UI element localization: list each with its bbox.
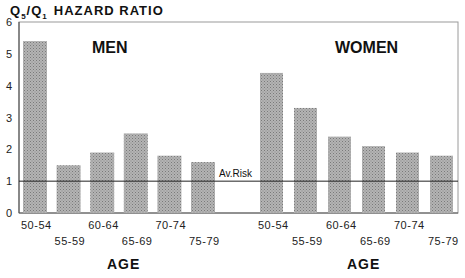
x-tick-label: 50-54 <box>258 219 289 231</box>
y-tick-label: 1 <box>6 175 12 187</box>
bar-men-75-79 <box>191 162 215 213</box>
bar-women-50-54 <box>260 73 283 213</box>
x-tick-label: 60-64 <box>326 219 357 231</box>
bar-men-55-59 <box>57 165 81 213</box>
y-tick-labels: 0123456 <box>6 16 12 219</box>
x-tick-labels: 50-5455-5960-6465-6970-7475-7950-5455-59… <box>21 219 459 247</box>
y-tick-label: 0 <box>6 207 12 219</box>
panel-label-women: WOMEN <box>335 39 398 56</box>
x-tick-label: 65-69 <box>122 235 153 247</box>
x-tick-label: 70-74 <box>155 219 186 231</box>
y-tick-label: 4 <box>6 80 12 92</box>
x-tick-label: 55-59 <box>55 235 86 247</box>
panel-label-men: MEN <box>92 39 128 56</box>
bar-women-65-69 <box>362 146 385 213</box>
x-axis-label-men: AGE <box>107 256 140 272</box>
average-risk-label: Av.Risk <box>219 168 253 179</box>
x-tick-label: 75-79 <box>428 235 459 247</box>
bar-women-75-79 <box>430 156 453 213</box>
x-tick-label: 60-64 <box>88 219 119 231</box>
y-tick-label: 2 <box>6 143 12 155</box>
bar-men-60-64 <box>90 153 114 213</box>
bar-men-50-54 <box>23 41 47 213</box>
bar-women-55-59 <box>294 108 317 213</box>
y-tick-label: 3 <box>6 112 12 124</box>
bar-men-65-69 <box>124 133 148 213</box>
x-axis-label-women: AGE <box>347 256 380 272</box>
bar-men-70-74 <box>157 156 181 213</box>
bar-women-70-74 <box>396 153 419 213</box>
x-tick-label: 75-79 <box>189 235 220 247</box>
y-tick-label: 6 <box>6 16 12 28</box>
bar-women-60-64 <box>328 137 351 213</box>
x-tick-label: 70-74 <box>394 219 425 231</box>
x-tick-label: 50-54 <box>21 219 52 231</box>
hazard-ratio-chart: Q5/Q1HAZARD RATIO 0123456 Av.Risk MEN WO… <box>0 0 465 278</box>
bars <box>23 41 453 213</box>
x-tick-label: 65-69 <box>360 235 391 247</box>
x-tick-label: 55-59 <box>292 235 323 247</box>
chart-title: Q5/Q1HAZARD RATIO <box>10 3 164 21</box>
y-tick-label: 5 <box>6 48 12 60</box>
